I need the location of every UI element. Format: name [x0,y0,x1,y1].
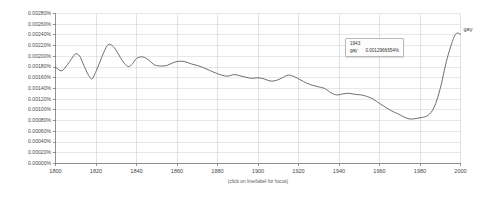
x-tick-label: 1960 [373,168,385,174]
chart-svg[interactable]: 0.00000%0.00020%0.00040%0.00060%0.00080%… [0,0,481,198]
x-tick-label: 1800 [49,168,61,174]
y-tick-label: 0.00160% [28,74,51,80]
x-tick-label: 1900 [252,168,264,174]
y-tick-label: 0.00240% [28,31,51,37]
x-tick-label: 1820 [90,168,102,174]
x-axis-tick-labels: 1800182018401860188019001920194019601980… [49,168,466,174]
data-tooltip: 1943 gay 0.0012966654% [345,38,404,57]
y-tick-label: 0.00000% [28,160,51,166]
y-tick-label: 0.00180% [28,63,51,69]
y-tick-label: 0.00140% [28,85,51,91]
y-tick-label: 0.00120% [28,96,51,102]
ngram-chart: 0.00000%0.00020%0.00040%0.00060%0.00080%… [0,0,481,198]
y-tick-label: 0.00020% [28,149,51,155]
tooltip-series-name: gay [350,48,357,55]
horizontal-gridlines [53,14,461,164]
y-tick-label: 0.00080% [28,117,51,123]
axis-caption: (click on line/label for focus) [228,179,289,184]
vertical-gridlines [56,14,461,167]
x-tick-label: 1940 [333,168,345,174]
x-tick-label: 1880 [211,168,223,174]
y-tick-label: 0.00220% [28,42,51,48]
x-tick-label: 1980 [414,168,426,174]
tooltip-year: 1943 [350,41,399,48]
tooltip-value: 0.0012966654% [365,48,398,55]
y-tick-label: 0.00280% [28,10,51,16]
x-tick-label: 1860 [171,168,183,174]
y-tick-label: 0.00260% [28,21,51,27]
x-tick-label: 1840 [130,168,142,174]
x-tick-label: 2000 [454,168,466,174]
y-axis-tick-labels: 0.00000%0.00020%0.00040%0.00060%0.00080%… [28,10,51,166]
series-end-label[interactable]: gay [464,26,473,32]
y-tick-label: 0.00060% [28,128,51,134]
x-tick-label: 1920 [292,168,304,174]
y-tick-label: 0.00100% [28,106,51,112]
y-tick-label: 0.00040% [28,138,51,144]
y-tick-label: 0.00200% [28,53,51,59]
